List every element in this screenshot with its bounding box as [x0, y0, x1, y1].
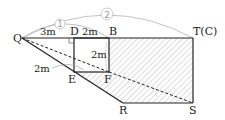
label-F: F	[104, 73, 112, 86]
svg-text:2: 2	[104, 10, 110, 20]
measure-BF: 2m	[91, 49, 107, 60]
label-Q: Q	[13, 32, 22, 45]
label-T: T(C)	[193, 25, 217, 38]
label-B: B	[109, 25, 117, 38]
right-angle-mark	[69, 38, 74, 43]
arc-large-label: 2	[101, 8, 113, 20]
arc-small-label: 1	[55, 19, 65, 29]
svg-text:1: 1	[57, 19, 63, 29]
label-R: R	[119, 104, 128, 117]
measure-DB: 2m	[82, 26, 98, 37]
hatched-shadow-region	[74, 38, 193, 103]
label-S: S	[189, 104, 197, 117]
label-D: D	[70, 25, 79, 38]
geometry-diagram: 1 2 Q D B T(C) E F R S 3m 2m 2m 2m	[0, 0, 225, 120]
measure-QD: 3m	[40, 26, 56, 37]
measure-QE: 2m	[34, 63, 50, 74]
label-E: E	[68, 73, 76, 86]
